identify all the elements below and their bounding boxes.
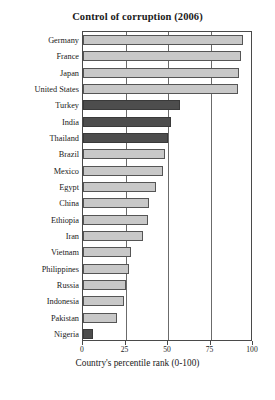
bar-egypt — [83, 182, 156, 192]
bar-row: Iran — [83, 228, 251, 244]
y-axis-label-vietnam: Vietnam — [51, 248, 79, 257]
tick-label-50: 50 — [152, 345, 182, 354]
bar-china — [83, 198, 149, 208]
bar-row: Mexico — [83, 163, 251, 179]
y-axis-label-mexico: Mexico — [54, 166, 79, 175]
bar-row: India — [83, 114, 251, 130]
bar-iran — [83, 231, 143, 241]
bar-indonesia — [83, 296, 124, 306]
bar-united-states — [83, 84, 238, 94]
bar-brazil — [83, 149, 165, 159]
chart-title: Control of corruption (2006) — [0, 11, 275, 22]
y-axis-label-china: China — [59, 199, 79, 208]
bar-mexico — [83, 166, 163, 176]
bar-india — [83, 117, 171, 127]
y-axis-label-ethiopia: Ethiopia — [51, 215, 79, 224]
y-axis-label-iran: Iran — [66, 231, 79, 240]
bar-nigeria — [83, 329, 93, 339]
y-axis-label-thailand: Thailand — [50, 134, 80, 143]
chart-figure: Control of corruption (2006) GermanyFran… — [0, 0, 275, 400]
bar-row: Japan — [83, 65, 251, 81]
bar-row: France — [83, 48, 251, 64]
bar-row: Philippines — [83, 260, 251, 276]
bar-pakistan — [83, 313, 117, 323]
bar-row: Egypt — [83, 179, 251, 195]
y-axis-label-brazil: Brazil — [59, 150, 79, 159]
bar-philippines — [83, 264, 129, 274]
y-axis-label-egypt: Egypt — [59, 182, 79, 191]
y-axis-label-india: India — [62, 117, 79, 126]
x-axis-label: Country's percentile rank (0-100) — [0, 358, 275, 368]
bar-row: Ethiopia — [83, 211, 251, 227]
tick-label-100: 100 — [237, 345, 267, 354]
bar-row: United States — [83, 81, 251, 97]
y-axis-label-nigeria: Nigeria — [54, 329, 79, 338]
y-axis-label-france: France — [56, 52, 79, 61]
bar-row: Turkey — [83, 97, 251, 113]
tick-label-25: 25 — [110, 345, 140, 354]
bar-germany — [83, 35, 243, 45]
y-axis-label-united-states: United States — [35, 85, 79, 94]
bar-row: Indonesia — [83, 293, 251, 309]
y-axis-label-indonesia: Indonesia — [47, 297, 79, 306]
y-axis-label-russia: Russia — [57, 280, 79, 289]
bar-row: Germany — [83, 32, 251, 48]
bar-row: Thailand — [83, 130, 251, 146]
tick-label-0: 0 — [67, 345, 97, 354]
tick-label-75: 75 — [195, 345, 225, 354]
bar-vietnam — [83, 247, 131, 257]
bar-france — [83, 51, 241, 61]
bar-row: Vietnam — [83, 244, 251, 260]
bar-row: Russia — [83, 277, 251, 293]
y-axis-label-philippines: Philippines — [42, 264, 79, 273]
bar-japan — [83, 68, 239, 78]
plot-area: GermanyFranceJapanUnited StatesTurkeyInd… — [82, 31, 252, 341]
bar-turkey — [83, 100, 180, 110]
y-axis-label-turkey: Turkey — [55, 101, 79, 110]
y-axis-label-pakistan: Pakistan — [51, 313, 79, 322]
bar-series: GermanyFranceJapanUnited StatesTurkeyInd… — [83, 32, 251, 340]
bar-row: Pakistan — [83, 309, 251, 325]
bar-row: Nigeria — [83, 326, 251, 342]
bar-ethiopia — [83, 215, 148, 225]
y-axis-label-japan: Japan — [60, 68, 79, 77]
bar-row: China — [83, 195, 251, 211]
y-axis-label-germany: Germany — [48, 36, 79, 45]
bar-russia — [83, 280, 126, 290]
bar-row: Brazil — [83, 146, 251, 162]
bar-thailand — [83, 133, 168, 143]
